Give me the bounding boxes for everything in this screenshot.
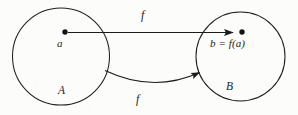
mapping-arrow-curved	[105, 71, 200, 83]
point-b-dot	[239, 29, 244, 34]
point-b-label: b = f(a)	[210, 38, 245, 49]
set-b-circle	[196, 12, 285, 101]
diagram-canvas	[0, 0, 298, 115]
set-b-label: B	[226, 81, 233, 93]
function-label-bottom: f	[136, 93, 139, 105]
point-a-label: a	[57, 38, 63, 49]
function-label-top: f	[141, 9, 144, 21]
point-a-dot	[62, 29, 67, 34]
set-a-label: A	[58, 85, 65, 97]
function-mapping-diagram: a b = f(a) A B f f	[0, 0, 298, 115]
